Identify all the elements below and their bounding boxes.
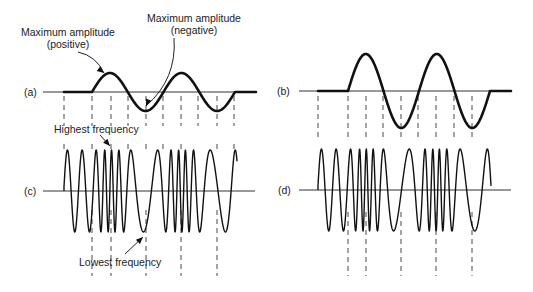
panel-a-label: (a) [24, 86, 37, 98]
panel-d-fm-carrier [299, 149, 511, 276]
panel-d-label: (d) [278, 184, 291, 196]
highest-frequency-label: Highest frequency [54, 123, 139, 135]
panel-b-label: (b) [277, 85, 290, 97]
panel-a-modulating-signal [43, 73, 256, 126]
max-amplitude-positive-label: Maximum amplitude (positive) [20, 26, 116, 50]
panel-c-label: (c) [24, 185, 36, 197]
max-amplitude-negative-label: Maximum amplitude (negative) [146, 12, 242, 36]
panel-b-modulating-signal [299, 54, 511, 140]
arrowhead-icon [97, 66, 104, 73]
lowest-frequency-label: Lowest frequency [79, 256, 161, 268]
